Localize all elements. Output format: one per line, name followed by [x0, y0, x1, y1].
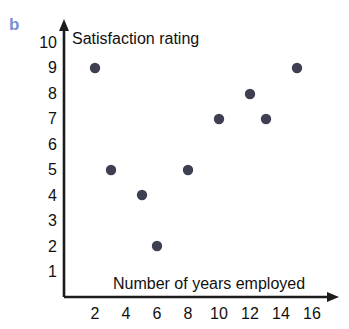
data-point [137, 190, 147, 200]
y-tick-label-7: 7 [48, 110, 57, 127]
x-tick-label-12: 12 [241, 305, 259, 322]
y-tick-label-9: 9 [48, 59, 57, 76]
data-point [245, 89, 255, 99]
x-tick-label-10: 10 [210, 305, 228, 322]
x-axis-title: Number of years employed [113, 275, 305, 292]
data-point [261, 114, 271, 124]
scatter-plot-canvas: 10 9 8 7 6 5 4 3 2 1 2 4 6 8 10 12 14 16… [0, 0, 349, 329]
data-point [183, 165, 193, 175]
y-tick-label-6: 6 [48, 136, 57, 153]
data-point [106, 165, 116, 175]
scatter-plot-figure: b 10 9 8 7 6 5 4 3 2 1 2 4 6 8 10 12 14 … [0, 0, 349, 329]
data-point [214, 114, 224, 124]
data-point [152, 241, 162, 251]
x-tick-label-16: 16 [303, 305, 321, 322]
y-tick-label-10: 10 [39, 34, 57, 51]
data-point [90, 63, 100, 73]
y-tick-label-2: 2 [48, 238, 57, 255]
y-axis-title: Satisfaction rating [72, 30, 199, 47]
x-tick-label-6: 6 [153, 305, 162, 322]
x-tick-label-8: 8 [184, 305, 193, 322]
x-tick-label-4: 4 [122, 305, 131, 322]
y-tick-label-8: 8 [48, 85, 57, 102]
x-tick-label-2: 2 [91, 305, 100, 322]
x-axis-arrow-icon [327, 292, 339, 302]
data-point [292, 63, 302, 73]
y-tick-label-4: 4 [48, 187, 57, 204]
y-tick-label-5: 5 [48, 161, 57, 178]
y-tick-label-3: 3 [48, 212, 57, 229]
x-tick-label-14: 14 [272, 305, 290, 322]
y-tick-label-1: 1 [48, 263, 57, 280]
y-axis-arrow-icon [59, 19, 69, 31]
